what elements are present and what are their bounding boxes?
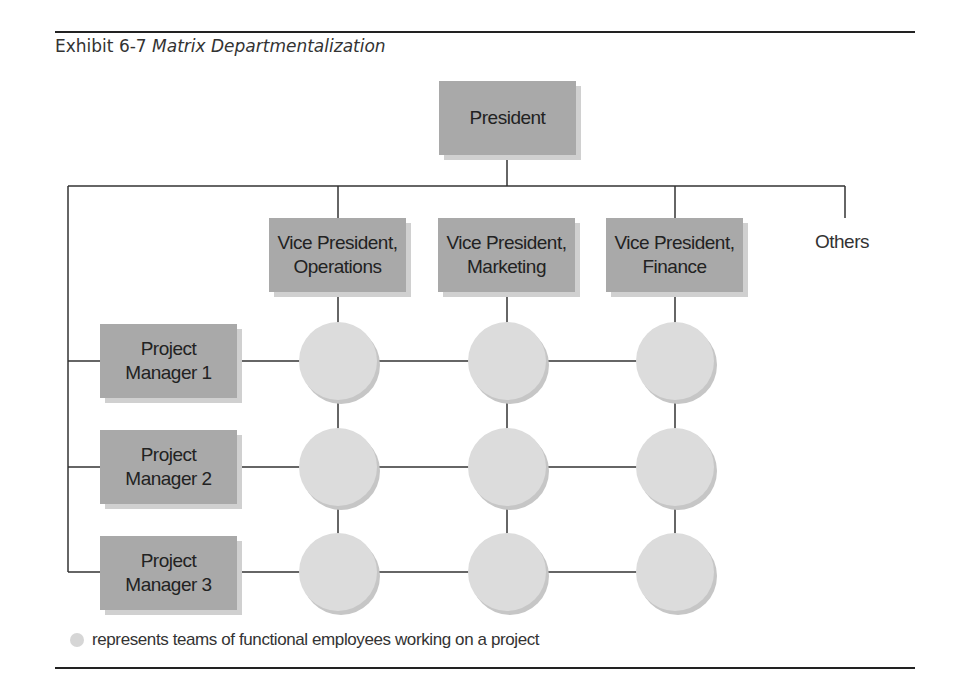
team-circle-icon [70, 633, 84, 647]
project-manager-1-box: Project Manager 1 [100, 324, 237, 398]
team-circle-pm1-fin [636, 322, 714, 400]
project-manager-3-box: Project Manager 3 [100, 536, 237, 610]
team-circle-pm3-fin [636, 533, 714, 611]
team-circle-pm3-mkt [468, 533, 546, 611]
others-label: Others [815, 231, 869, 253]
vp-operations-box: Vice President, Operations [269, 218, 406, 292]
legend: represents teams of functional employees… [70, 630, 539, 650]
president-box: President [439, 81, 576, 155]
team-circle-pm3-ops [299, 533, 377, 611]
project-manager-2-box: Project Manager 2 [100, 430, 237, 504]
team-circle-pm1-ops [299, 322, 377, 400]
team-circle-pm2-fin [636, 428, 714, 506]
vp-finance-box: Vice President, Finance [606, 218, 743, 292]
team-circle-pm1-mkt [468, 322, 546, 400]
vp-marketing-box: Vice President, Marketing [438, 218, 575, 292]
team-circle-pm2-ops [299, 428, 377, 506]
bottom-rule [55, 667, 915, 669]
team-circle-pm2-mkt [468, 428, 546, 506]
legend-text: represents teams of functional employees… [92, 630, 539, 650]
